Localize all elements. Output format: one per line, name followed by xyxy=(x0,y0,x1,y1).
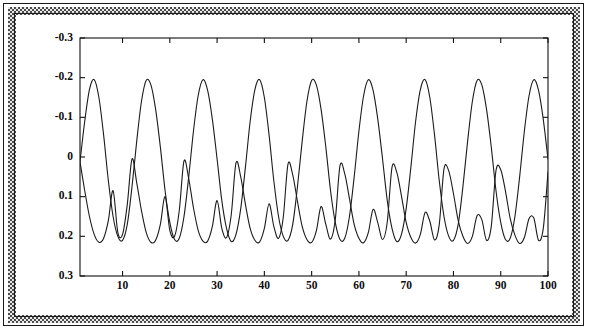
x-tick-label: 90 xyxy=(495,279,507,291)
curves-group xyxy=(80,79,548,243)
figure-canvas: 0.30.20.10-0.1-0.2-0.3102030405060708090… xyxy=(22,21,567,310)
x-tick-label: 60 xyxy=(353,279,365,291)
x-tick-label: 20 xyxy=(164,279,176,291)
y-tick-label: 0 xyxy=(67,150,73,162)
curve-signal-2 xyxy=(80,159,548,244)
x-tick-label: 40 xyxy=(259,279,271,291)
x-tick-label: 50 xyxy=(306,279,318,291)
x-tick-label: 70 xyxy=(400,279,412,291)
x-tick-label: 30 xyxy=(211,279,223,291)
y-tick-label: -0.3 xyxy=(55,31,73,43)
y-tick-label: -0.1 xyxy=(55,110,73,122)
x-tick-label: 10 xyxy=(117,279,129,291)
curve-signal-1 xyxy=(80,79,548,241)
axis-box xyxy=(80,38,548,276)
screenshot-page: 0.30.20.10-0.1-0.2-0.3102030405060708090… xyxy=(0,0,589,331)
plot-svg: 0.30.20.10-0.1-0.2-0.3102030405060708090… xyxy=(22,21,567,310)
x-tick-label: 80 xyxy=(448,279,460,291)
y-tick-label: -0.2 xyxy=(55,70,73,82)
y-tick-label: 0.2 xyxy=(59,229,74,241)
y-tick-label: 0.1 xyxy=(59,189,74,201)
x-tick-label: 100 xyxy=(539,279,557,291)
y-tick-label: 0.3 xyxy=(59,269,74,281)
